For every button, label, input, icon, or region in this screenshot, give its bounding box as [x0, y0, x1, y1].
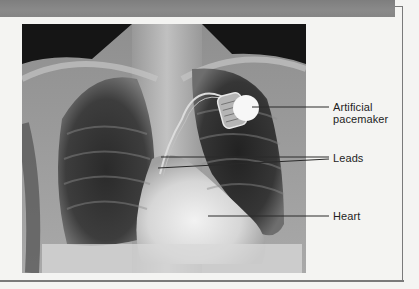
label-leads: Leads [333, 152, 363, 164]
label-pacemaker-line2: pacemaker [333, 113, 388, 125]
frame-border-right [395, 6, 403, 282]
frame-border-bottom [0, 280, 404, 282]
label-pacemaker-line1: Artificial [333, 101, 388, 113]
label-artificial-pacemaker: Artificial pacemaker [333, 101, 388, 125]
header-band [0, 0, 395, 17]
chest-xray-image [22, 24, 306, 273]
label-heart: Heart [333, 210, 360, 222]
